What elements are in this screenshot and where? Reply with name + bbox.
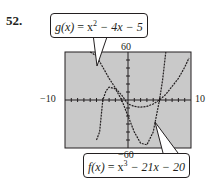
- x-min-label: −10: [40, 93, 56, 104]
- y-min-label: −60: [118, 149, 134, 160]
- g-function-label: g(x) = x2 − 4x − 5: [50, 13, 148, 38]
- f-rest: − 21x − 20: [127, 160, 185, 174]
- f-name: f(x): [88, 160, 105, 174]
- g-rest: − 4x − 5: [97, 20, 143, 34]
- y-max-label: 60: [121, 41, 131, 52]
- f-eq: = x: [108, 160, 124, 174]
- f-function-label: f(x) = x3 − 21x − 20: [83, 153, 190, 178]
- g-eq: = x: [77, 20, 93, 34]
- g-name: g(x): [55, 20, 74, 34]
- x-max-label: 10: [195, 93, 205, 104]
